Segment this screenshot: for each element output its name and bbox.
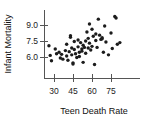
x-tick-label: 60 — [87, 86, 97, 96]
data-point — [87, 37, 90, 40]
x-axis-ticks: 30456075 — [49, 74, 116, 96]
data-point — [102, 51, 105, 54]
data-point — [109, 31, 112, 34]
data-point — [65, 54, 68, 57]
x-tick-label: 45 — [68, 86, 78, 96]
data-point — [71, 62, 74, 65]
data-point — [80, 49, 83, 52]
data-point — [50, 59, 53, 62]
data-point — [97, 17, 100, 20]
data-point — [98, 33, 101, 36]
y-tick-label: 7.5 — [26, 36, 38, 46]
data-point — [94, 32, 97, 35]
y-axis-ticks: 6.07.59.0 — [26, 20, 48, 62]
data-point — [104, 40, 107, 43]
data-point — [107, 53, 110, 56]
data-point — [88, 22, 91, 25]
x-tick-label: 30 — [49, 86, 59, 96]
data-point — [47, 44, 50, 47]
data-point — [94, 39, 97, 42]
data-point — [83, 46, 86, 49]
y-tick-label: 6.0 — [26, 52, 38, 62]
data-point — [79, 41, 82, 44]
y-tick-label: 9.0 — [26, 20, 38, 30]
data-point — [76, 45, 79, 48]
data-point — [103, 24, 106, 27]
data-point — [90, 45, 93, 48]
data-point — [61, 57, 64, 60]
data-point — [60, 53, 63, 56]
data-point — [66, 59, 69, 62]
data-point — [84, 39, 87, 42]
data-point — [69, 36, 72, 39]
data-point — [76, 38, 79, 41]
data-point — [90, 28, 93, 31]
data-point — [73, 48, 76, 51]
y-axis-title: Infant Mortality — [3, 14, 13, 74]
chart-canvas: 6.07.59.0 30456075 Teen Death Rate Infan… — [0, 0, 144, 120]
data-point — [114, 16, 117, 19]
x-axis-title: Teen Death Rate — [60, 106, 128, 116]
scatter-plot-figure: 6.07.59.0 30456075 Teen Death Rate Infan… — [0, 0, 144, 120]
data-point — [118, 41, 121, 44]
data-point — [100, 37, 103, 40]
data-points-layer — [47, 15, 121, 66]
data-point — [64, 49, 67, 52]
data-point — [111, 47, 114, 50]
data-point — [93, 63, 96, 66]
data-point — [68, 50, 71, 53]
data-point — [74, 52, 77, 55]
x-tick-label: 75 — [106, 86, 116, 96]
data-point — [81, 61, 84, 64]
data-point — [70, 53, 73, 56]
data-point — [89, 48, 92, 51]
data-point — [85, 30, 88, 33]
data-point — [49, 54, 52, 57]
data-point — [95, 46, 98, 49]
data-point — [65, 43, 68, 46]
data-point — [88, 41, 91, 44]
data-point — [78, 55, 81, 58]
data-point — [73, 40, 76, 43]
data-point — [54, 47, 57, 50]
data-point — [84, 52, 87, 55]
